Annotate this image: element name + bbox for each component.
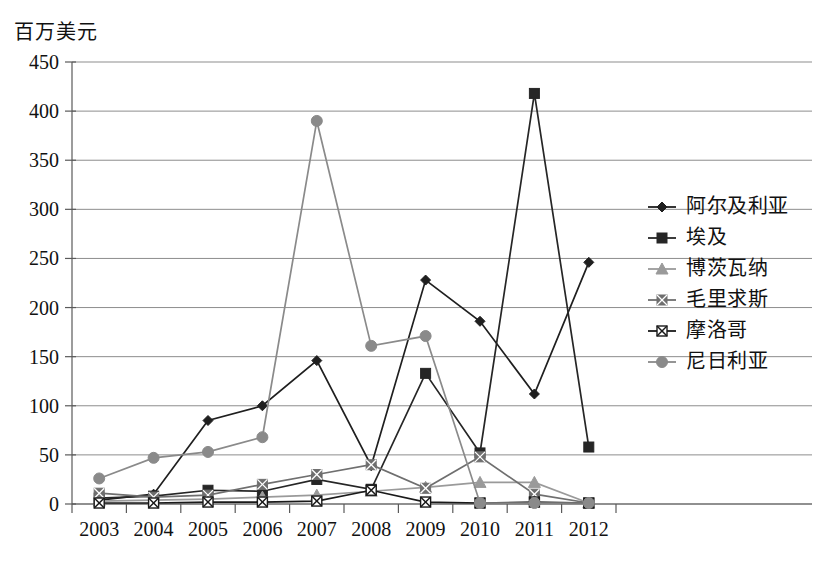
legend-item[interactable]: 毛里求斯	[648, 288, 768, 310]
y-tick-label: 250	[29, 247, 59, 269]
data-point-marker	[366, 485, 376, 495]
legend-item[interactable]: 埃及	[648, 226, 727, 248]
data-point-marker	[420, 331, 431, 342]
legend-label: 摩洛哥	[686, 319, 748, 341]
data-point-marker	[421, 483, 431, 493]
legend-marker-icon	[657, 233, 667, 243]
data-point-marker	[529, 88, 539, 98]
legend-label: 博茨瓦纳	[686, 257, 768, 279]
data-point-marker	[311, 115, 322, 126]
legend-item[interactable]: 博茨瓦纳	[648, 257, 768, 279]
legend-label: 毛里求斯	[686, 288, 768, 310]
x-tick-label: 2006	[242, 518, 282, 540]
x-tick-label: 2003	[79, 518, 119, 540]
legend-label: 埃及	[686, 226, 727, 248]
y-axis-tick-labels: 050100150200250300350400450	[29, 51, 59, 515]
data-point-marker	[312, 496, 322, 506]
y-tick-label: 200	[29, 297, 59, 319]
data-point-marker	[421, 368, 431, 378]
legend-marker-icon	[657, 295, 667, 305]
legend-marker-icon	[657, 202, 667, 212]
legend-marker-icon	[657, 326, 667, 336]
series-line	[99, 121, 589, 503]
x-axis-tick-labels: 2003200420052006200720082009201020112012	[79, 518, 609, 540]
y-tick-label: 350	[29, 149, 59, 171]
data-point-marker	[149, 498, 159, 508]
gridlines	[72, 62, 812, 504]
data-series	[94, 88, 594, 503]
series-line	[99, 482, 589, 503]
data-point-marker	[475, 452, 485, 462]
data-point-marker	[203, 497, 213, 507]
legend-item[interactable]: 阿尔及利亚	[648, 195, 789, 217]
legend-item[interactable]: 尼日利亚	[648, 350, 768, 372]
data-point-marker	[583, 498, 594, 509]
x-tick-label: 2005	[188, 518, 228, 540]
data-point-marker	[257, 479, 267, 489]
data-point-marker	[529, 498, 540, 509]
y-tick-label: 50	[39, 444, 59, 466]
x-tick-label: 2007	[297, 518, 337, 540]
data-point-marker	[421, 497, 431, 507]
data-point-marker	[366, 460, 376, 470]
data-series	[94, 115, 595, 508]
chart-legend: 阿尔及利亚埃及博茨瓦纳毛里求斯摩洛哥尼日利亚	[648, 195, 789, 372]
legend-label: 阿尔及利亚	[686, 195, 789, 217]
data-point-marker	[366, 340, 377, 351]
data-point-marker	[94, 473, 105, 484]
data-point-marker	[257, 497, 267, 507]
data-series	[94, 257, 594, 505]
data-point-marker	[148, 452, 159, 463]
data-point-marker	[475, 498, 486, 509]
data-point-marker	[584, 442, 594, 452]
line-chart: 050100150200250300350400450 200320042005…	[0, 0, 817, 565]
x-tick-label: 2010	[460, 518, 500, 540]
data-series-layer	[93, 88, 595, 508]
x-tick-label: 2008	[351, 518, 391, 540]
data-point-marker	[94, 498, 104, 508]
series-line	[99, 262, 589, 500]
data-point-marker	[257, 432, 268, 443]
y-tick-label: 450	[29, 51, 59, 73]
y-tick-label: 100	[29, 395, 59, 417]
chart-root: 百万美元 050100150200250300350400450 2003200…	[0, 0, 817, 565]
series-line	[99, 93, 589, 498]
y-tick-label: 0	[49, 493, 59, 515]
x-tick-label: 2012	[569, 518, 609, 540]
y-tick-label: 150	[29, 346, 59, 368]
x-tick-label: 2004	[134, 518, 174, 540]
data-point-marker	[94, 488, 104, 498]
x-tick-label: 2011	[515, 518, 554, 540]
y-tick-label: 300	[29, 198, 59, 220]
legend-label: 尼日利亚	[686, 350, 768, 372]
legend-marker-icon	[657, 357, 668, 368]
legend-item[interactable]: 摩洛哥	[648, 319, 748, 341]
data-point-marker	[312, 470, 322, 480]
x-tick-label: 2009	[406, 518, 446, 540]
data-point-marker	[203, 446, 214, 457]
y-tick-label: 400	[29, 100, 59, 122]
